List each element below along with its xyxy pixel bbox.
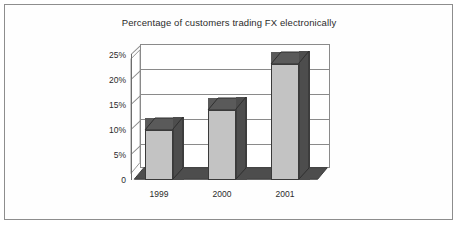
x-tick-label-2001: 2001 bbox=[265, 189, 305, 199]
y-tick-label: 5% bbox=[114, 150, 126, 160]
bar-side-face-2000 bbox=[236, 97, 247, 180]
bar-side-face-2001 bbox=[299, 51, 310, 180]
bar-group-1999[interactable] bbox=[145, 130, 173, 180]
y-tick-label: 0 bbox=[121, 175, 126, 185]
bar-group-2001[interactable] bbox=[271, 64, 299, 180]
bar-front-face-2000 bbox=[208, 110, 236, 180]
y-axis-tick-labels: 25% 20% 15% 10% 5% 0 bbox=[96, 44, 126, 189]
y-tick-label: 10% bbox=[109, 125, 126, 135]
bar-front-face-1999 bbox=[145, 130, 173, 180]
chart-screenshot: Percentage of customers trading FX elect… bbox=[0, 0, 458, 226]
x-axis-tick-labels: 1999 2000 2001 bbox=[131, 189, 346, 205]
x-tick-label-2000: 2000 bbox=[202, 189, 242, 199]
bar-side-face-1999 bbox=[173, 117, 184, 180]
x-tick-label-1999: 1999 bbox=[139, 189, 179, 199]
bar-front-face-2001 bbox=[271, 64, 299, 180]
plot-area bbox=[131, 44, 346, 189]
y-tick-label: 20% bbox=[109, 75, 126, 85]
y-tick-label: 15% bbox=[109, 100, 126, 110]
bar-group-2000[interactable] bbox=[208, 110, 236, 180]
y-tick-label: 25% bbox=[109, 50, 126, 60]
chart-title: Percentage of customers trading FX elect… bbox=[0, 17, 458, 28]
